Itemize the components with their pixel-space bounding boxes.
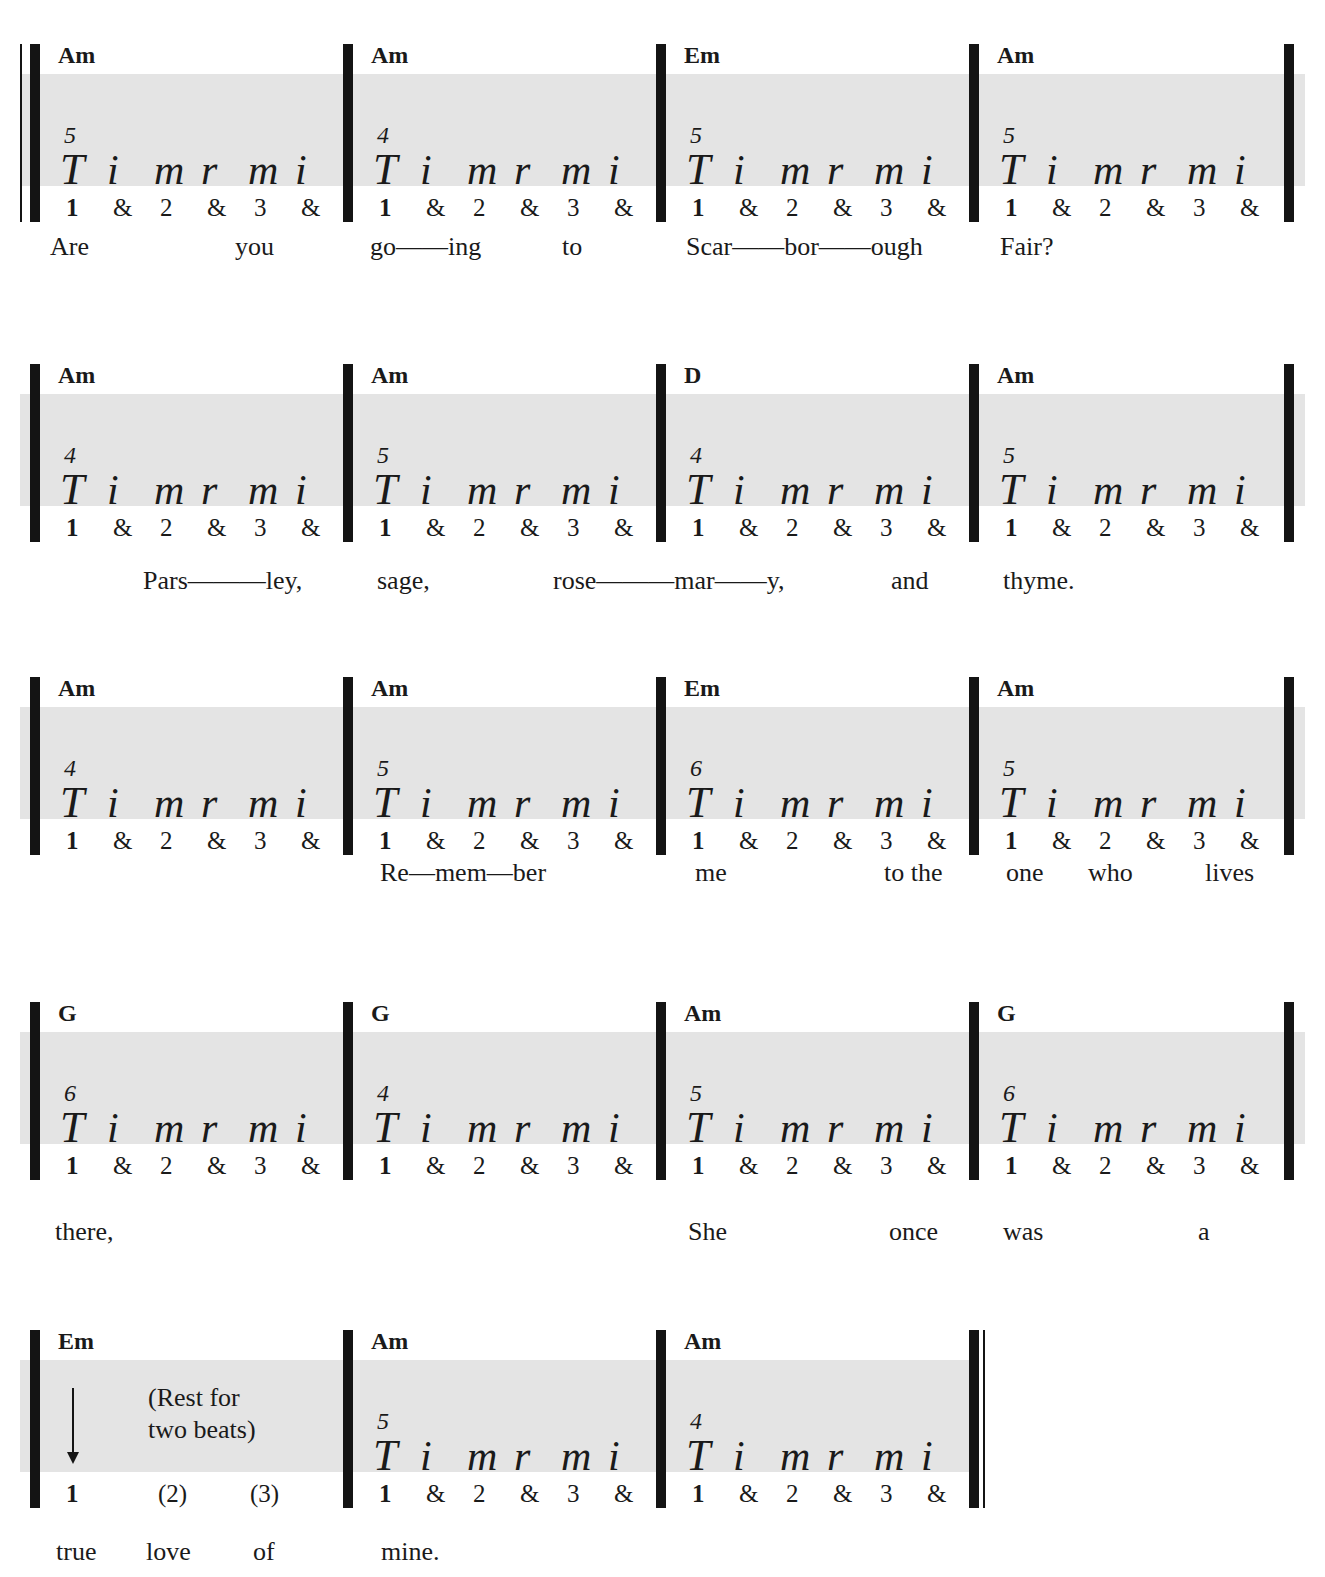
chord-label: Em: [58, 1328, 94, 1355]
finger-symbol: i: [921, 1432, 968, 1480]
beat-count: 3: [567, 1152, 614, 1180]
beat-count: &: [1146, 194, 1193, 222]
measure: Am4Timrmi1&2&3&: [343, 32, 643, 232]
beat-counts: 1&2&3&: [379, 194, 661, 222]
beat-count: 1: [66, 1480, 158, 1508]
finger-symbol: m: [154, 779, 201, 827]
beat-count: &: [614, 1152, 661, 1180]
beat-count: &: [207, 194, 254, 222]
beat-count: 3: [254, 1152, 301, 1180]
beat-count: &: [833, 827, 880, 855]
finger-symbol: i: [295, 779, 342, 827]
finger-symbol: m: [874, 1432, 921, 1480]
beat-count: &: [927, 827, 974, 855]
finger-symbol: i: [733, 146, 780, 194]
lyric-syllable: go——ing: [370, 232, 481, 262]
rest-annotation: (Rest fortwo beats): [148, 1382, 256, 1446]
beat-count: (2): [158, 1480, 250, 1508]
beat-count: 1: [379, 1480, 426, 1508]
tab-system: Em(Rest fortwo beats)1(2)(3)Am5Timrmi1&2…: [0, 1318, 1325, 1577]
beat-count: &: [1146, 514, 1193, 542]
finger-symbol: r: [514, 779, 561, 827]
beat-count: 1: [379, 1152, 426, 1180]
finger-symbol: i: [921, 1104, 968, 1152]
beat-count: &: [927, 1480, 974, 1508]
beat-count: &: [520, 1480, 567, 1508]
beat-count: 3: [880, 194, 927, 222]
tab-system: Am4Timrmi1&2&3&Am5Timrmi1&2&3&Em6Timrmi1…: [0, 665, 1325, 965]
beat-count: 1: [379, 194, 426, 222]
lyric-syllable: Are: [50, 232, 89, 262]
finger-symbol: r: [201, 466, 248, 514]
beat-count: &: [301, 827, 348, 855]
beat-counts: 1&2&3&: [692, 1480, 974, 1508]
beat-count: &: [520, 1152, 567, 1180]
beat-count: &: [520, 194, 567, 222]
measure: G6Timrmi1&2&3&: [30, 990, 330, 1190]
finger-symbol: T: [999, 144, 1046, 195]
beat-count: 3: [880, 514, 927, 542]
rest-annotation-line: two beats): [148, 1414, 256, 1446]
lyric-syllable: to: [562, 232, 582, 262]
finger-symbol: i: [1234, 466, 1281, 514]
beat-count: 2: [1099, 827, 1146, 855]
lyric-syllable: a: [1198, 1217, 1210, 1247]
finger-symbol: i: [1046, 146, 1093, 194]
beat-count: 1: [1005, 194, 1052, 222]
beat-count: 1: [66, 514, 113, 542]
beat-count: &: [520, 514, 567, 542]
finger-symbol: T: [373, 1102, 420, 1153]
start-repeat-line: [20, 44, 22, 222]
beat-count: 1: [692, 827, 739, 855]
beat-count: 2: [786, 1480, 833, 1508]
finger-symbol: m: [1093, 1104, 1140, 1152]
beat-count: 1: [1005, 1152, 1052, 1180]
beat-count: &: [739, 1152, 786, 1180]
beat-count: 3: [1193, 194, 1240, 222]
beat-count: 2: [160, 514, 207, 542]
lyric-syllable: of: [253, 1537, 275, 1567]
tab-system: G6Timrmi1&2&3&G4Timrmi1&2&3&Am5Timrmi1&2…: [0, 990, 1325, 1290]
finger-pattern: Timrmi: [686, 1430, 968, 1481]
finger-symbol: i: [420, 1104, 467, 1152]
finger-symbol: m: [467, 466, 514, 514]
beat-counts: 1&2&3&: [66, 827, 348, 855]
beat-counts: 1&2&3&: [1005, 827, 1287, 855]
lyric-syllable: She: [688, 1217, 727, 1247]
beat-count: 2: [160, 194, 207, 222]
chord-label: Em: [684, 675, 720, 702]
finger-pattern: Timrmi: [60, 1102, 342, 1153]
lyric-syllable: once: [889, 1217, 938, 1247]
beat-count: &: [833, 514, 880, 542]
lyric-syllable: to the: [884, 858, 943, 888]
lyric-syllable: was: [1003, 1217, 1043, 1247]
finger-symbol: i: [608, 466, 655, 514]
lyric-syllable: me: [695, 858, 727, 888]
finger-pattern: Timrmi: [373, 464, 655, 515]
beat-count: 2: [1099, 514, 1146, 542]
finger-symbol: T: [686, 777, 733, 828]
finger-symbol: r: [514, 146, 561, 194]
beat-count: 2: [1099, 1152, 1146, 1180]
lyric-syllable: love: [146, 1537, 191, 1567]
beat-count: 1: [379, 827, 426, 855]
measure: Am5Timrmi1&2&3&: [343, 352, 643, 552]
finger-symbol: i: [295, 1104, 342, 1152]
beat-count: 2: [786, 827, 833, 855]
finger-pattern: Timrmi: [686, 777, 968, 828]
chord-label: Am: [997, 42, 1034, 69]
finger-symbol: r: [514, 466, 561, 514]
measure: Am5Timrmi1&2&3&: [969, 665, 1269, 865]
finger-symbol: T: [999, 464, 1046, 515]
finger-symbol: i: [733, 1432, 780, 1480]
measure: Em(Rest fortwo beats)1(2)(3): [30, 1318, 330, 1518]
lyric-syllable: there,: [55, 1217, 113, 1247]
finger-symbol: i: [295, 146, 342, 194]
beat-count: 1: [692, 514, 739, 542]
finger-symbol: i: [107, 466, 154, 514]
beat-count: &: [426, 1152, 473, 1180]
finger-symbol: r: [1140, 779, 1187, 827]
finger-symbol: m: [467, 1104, 514, 1152]
beat-count: &: [739, 827, 786, 855]
finger-symbol: m: [780, 779, 827, 827]
